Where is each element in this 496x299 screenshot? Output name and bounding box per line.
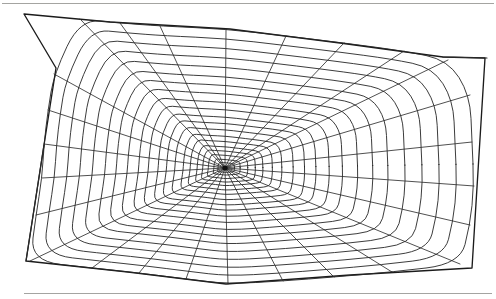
web-hub bbox=[222, 165, 227, 170]
figure-container bbox=[0, 0, 496, 299]
spider-web-illustration bbox=[0, 0, 496, 299]
